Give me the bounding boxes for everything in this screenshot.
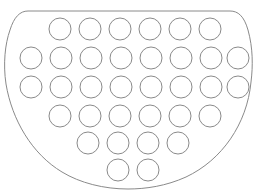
shape-diagram [0,0,258,195]
figure-canvas [0,0,258,195]
canvas-background [0,0,258,195]
